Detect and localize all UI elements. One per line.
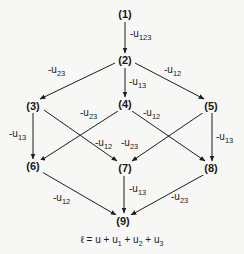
- edge-label-6-9: -u12: [53, 192, 70, 206]
- edge-label-3-6: -u13: [9, 128, 26, 142]
- node-9: (9): [116, 215, 130, 227]
- formula: ℓ = u + u1 + u2 + u3: [81, 234, 164, 247]
- formula-part: + u: [143, 234, 160, 245]
- edge-label-2-3: -u23: [48, 64, 65, 78]
- edges: [33, 22, 212, 215]
- node-4: (4): [118, 98, 132, 110]
- lattice-diagram: -u123-u23-u13-u12-u13-u12-u23-u12-u23-u1…: [0, 0, 244, 254]
- node-8: (8): [204, 162, 218, 174]
- edge-label-2-4: -u13: [129, 76, 146, 90]
- edge-arrow-5-7: [132, 112, 204, 161]
- node-7: (7): [118, 162, 132, 174]
- edge-label-1-2: -u123: [130, 28, 151, 42]
- formula-sub-3: 3: [160, 240, 164, 247]
- node-3: (3): [26, 100, 40, 112]
- node-5: (5): [204, 100, 218, 112]
- edge-label-5-7: -u23: [121, 137, 138, 151]
- edge-label-4-8: -u12: [143, 107, 160, 121]
- node-2: (2): [118, 54, 132, 66]
- node-1: (1): [118, 8, 132, 20]
- edge-label-5-8: -u13: [216, 131, 233, 145]
- edge-label-8-9: -u23: [171, 191, 188, 205]
- edge-label-2-5: -u12: [164, 64, 181, 78]
- formula-part: = u + u: [84, 234, 118, 245]
- node-6: (6): [26, 160, 40, 172]
- edge-label-4-6: -u23: [80, 107, 97, 121]
- edge-label-7-9: -u13: [129, 183, 146, 197]
- formula-part: + u: [122, 234, 139, 245]
- edge-label-3-7: -u12: [95, 137, 112, 151]
